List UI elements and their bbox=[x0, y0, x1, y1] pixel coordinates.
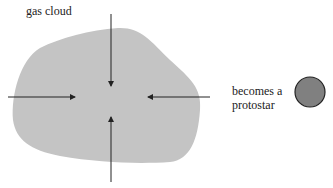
becomes-label-line1: becomes a bbox=[232, 84, 282, 98]
diagram-canvas bbox=[0, 0, 333, 188]
gas-cloud-shape bbox=[13, 28, 200, 163]
becomes-label-line2: protostar bbox=[232, 98, 275, 112]
gas-cloud-label: gas cloud bbox=[26, 4, 72, 18]
protostar-circle bbox=[295, 77, 325, 107]
